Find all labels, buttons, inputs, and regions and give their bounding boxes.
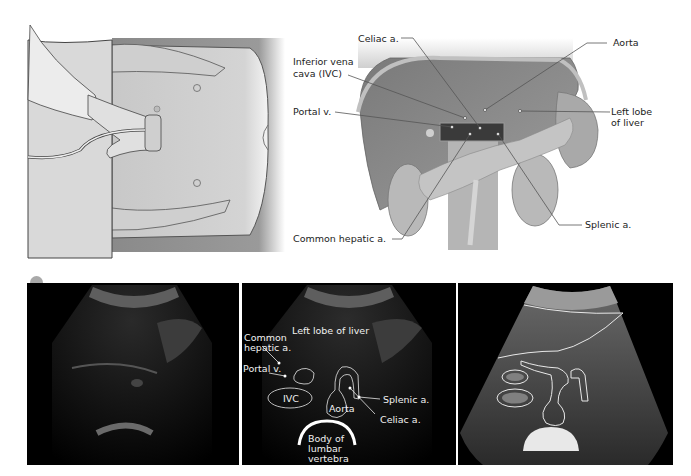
ultrasound-outlined-panel — [458, 283, 673, 465]
ultrasound-labeled-panel: Left lobe of liver Common hepatic a. Por… — [242, 283, 456, 465]
ultrasound-outline-image — [458, 283, 673, 465]
us-label-aorta: Aorta — [329, 403, 355, 414]
ultrasound-raw-image — [27, 283, 239, 465]
us-label-portal-vein: Portal v. — [243, 363, 281, 374]
label-common-hepatic-artery: Common hepatic a. — [293, 233, 386, 244]
label-left-lobe-line1: Left lobe — [611, 106, 652, 117]
us-label-celiac-artery: Celiac a. — [380, 414, 421, 425]
ultrasound-labeled-image — [242, 283, 456, 465]
anatomy-illustration: Celiac a. Inferior vena cava (IVC) Porta… — [280, 0, 691, 260]
label-aorta: Aorta — [613, 37, 639, 48]
ultrasound-raw-panel — [27, 283, 239, 465]
label-celiac-artery: Celiac a. — [358, 33, 399, 44]
us-label-splenic-artery: Splenic a. — [383, 394, 429, 405]
label-splenic-artery: Splenic a. — [585, 219, 631, 230]
us-label-ivc: IVC — [283, 393, 299, 404]
label-left-lobe-line2: of liver — [611, 117, 644, 128]
patient-scan-illustration — [0, 0, 285, 260]
us-label-common-hepatic-line2: hepatic a. — [244, 342, 291, 353]
label-portal-vein: Portal v. — [293, 106, 331, 117]
patient-illustration — [0, 0, 285, 260]
us-label-left-lobe-of-liver: Left lobe of liver — [292, 325, 369, 336]
us-label-vertebra-line3: vertebra — [308, 453, 349, 464]
label-ivc-line2: cava (IVC) — [293, 68, 342, 79]
label-ivc-line1: Inferior vena — [293, 56, 354, 67]
